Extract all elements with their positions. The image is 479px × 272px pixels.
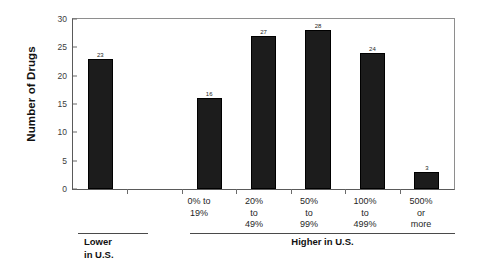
group-bracket-lower bbox=[78, 233, 148, 234]
bar-value-label: 24 bbox=[369, 46, 376, 53]
y-tick-label-30: 30 bbox=[58, 14, 73, 24]
bar-value-label: 16 bbox=[206, 91, 213, 98]
bar-500-or-more: 3 bbox=[414, 172, 439, 189]
y-tick-label-15: 15 bbox=[58, 99, 73, 109]
bar-lower-in-us: 23 bbox=[88, 59, 113, 189]
y-tick-label-25: 25 bbox=[58, 42, 73, 52]
bar-100-to-499: 24 bbox=[360, 53, 385, 189]
x-tick-mark-1 bbox=[127, 189, 128, 194]
x-tick-mark-5 bbox=[345, 189, 346, 194]
bar-value-label: 3 bbox=[425, 165, 428, 172]
x-label-500-or-more: 500% or more bbox=[392, 196, 450, 231]
y-tick-mark-20 bbox=[73, 75, 77, 76]
x-tick-mark-3 bbox=[236, 189, 237, 194]
x-label-20-to-49: 20% to 49% bbox=[227, 196, 281, 231]
bar-value-label: 28 bbox=[315, 23, 322, 30]
x-tick-mark-2 bbox=[182, 189, 183, 194]
group-label-lower: Lower in U.S. bbox=[78, 236, 148, 261]
bar-0-to-19: 16 bbox=[197, 98, 222, 189]
x-label-0-to-19: 0% to 19% bbox=[172, 196, 226, 219]
group-bracket-higher bbox=[190, 233, 455, 234]
y-axis-title: Number of Drugs bbox=[25, 14, 37, 174]
y-tick-label-5: 5 bbox=[62, 156, 73, 166]
y-tick-mark-25 bbox=[73, 47, 77, 48]
x-label-100-to-499: 100% to 499% bbox=[336, 196, 394, 231]
y-tick-mark-0 bbox=[73, 189, 77, 190]
y-tick-label-10: 10 bbox=[58, 127, 73, 137]
x-tick-mark-4 bbox=[291, 189, 292, 194]
y-tick-mark-30 bbox=[73, 19, 77, 20]
bar-50-to-99: 28 bbox=[305, 30, 330, 189]
bar-value-label: 27 bbox=[260, 29, 267, 36]
bar-20-to-49: 27 bbox=[251, 36, 276, 189]
plot-area: 30 25 20 15 10 5 0 23 16 27 28 bbox=[72, 18, 455, 190]
y-tick-label-20: 20 bbox=[58, 71, 73, 81]
bar-chart: Number of Drugs 30 25 20 15 10 5 0 23 16 bbox=[0, 0, 479, 272]
y-tick-mark-5 bbox=[73, 160, 77, 161]
y-tick-label-0: 0 bbox=[62, 184, 73, 194]
x-label-50-to-99: 50% to 99% bbox=[282, 196, 336, 231]
bar-value-label: 23 bbox=[97, 52, 104, 59]
y-tick-mark-15 bbox=[73, 104, 77, 105]
x-tick-mark-6 bbox=[400, 189, 401, 194]
group-label-higher: Higher in U.S. bbox=[190, 236, 455, 249]
y-tick-mark-10 bbox=[73, 132, 77, 133]
